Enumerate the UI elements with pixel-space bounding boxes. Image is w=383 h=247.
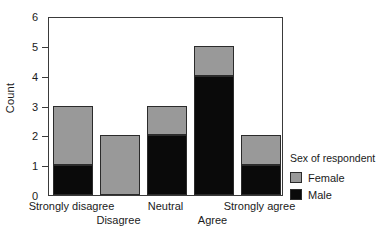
legend-swatch-female	[290, 172, 302, 183]
y-axis-tick-label: 2	[0, 131, 38, 142]
bar-segment-female[interactable]	[147, 106, 187, 136]
bar-segment-male[interactable]	[194, 76, 234, 195]
bar-segment-female[interactable]	[194, 46, 234, 76]
bar-group[interactable]	[194, 16, 234, 195]
bar-segment-male[interactable]	[147, 135, 187, 195]
bar-segment-female[interactable]	[53, 106, 93, 166]
bar-segment-female[interactable]	[100, 135, 140, 195]
bars-layer	[49, 18, 282, 195]
y-axis-tick-label: 4	[0, 72, 38, 83]
y-axis-tick-label: 6	[0, 12, 38, 23]
x-axis-tick-label: Neutral	[148, 200, 183, 212]
x-axis-tick-label: Strongly disagree	[29, 200, 115, 212]
y-axis-tick-label: 3	[0, 102, 38, 113]
bar-group[interactable]	[53, 16, 93, 195]
y-axis-tick-label: 5	[0, 42, 38, 53]
legend-title: Sex of respondent	[290, 152, 382, 165]
bar-segment-female[interactable]	[241, 135, 281, 165]
bar-segment-male[interactable]	[241, 165, 281, 195]
bar-group[interactable]	[241, 16, 281, 195]
x-axis-tick-label: Disagree	[96, 214, 140, 226]
plot-area	[48, 17, 283, 196]
legend-label-male: Male	[308, 189, 332, 201]
legend-label-female: Female	[308, 172, 345, 184]
bar-chart: Count 0123456 Strongly disagreeDisagreeN…	[0, 0, 383, 247]
bar-group[interactable]	[100, 16, 140, 195]
legend-swatch-male	[290, 189, 302, 200]
x-axis-tick-label: Agree	[198, 214, 227, 226]
legend-item-female[interactable]: Female	[290, 169, 382, 186]
bar-segment-male[interactable]	[53, 165, 93, 195]
legend: Sex of respondent Female Male	[290, 152, 382, 203]
bar-group[interactable]	[147, 16, 187, 195]
x-axis-tick-label: Strongly agree	[224, 200, 296, 212]
legend-item-male[interactable]: Male	[290, 186, 382, 203]
y-axis-tick-label: 1	[0, 161, 38, 172]
